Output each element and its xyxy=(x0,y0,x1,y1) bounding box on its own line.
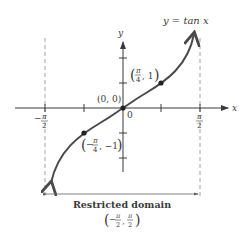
interval-label: ( − π 2 , π 2 ) xyxy=(104,212,140,229)
svg-text:(: ( xyxy=(130,67,135,83)
svg-text:2: 2 xyxy=(42,122,46,130)
curve-label: y = tan x xyxy=(162,15,209,26)
origin-label: (0, 0) xyxy=(97,94,121,104)
svg-text:4: 4 xyxy=(93,146,98,154)
svg-text:2: 2 xyxy=(128,221,132,229)
pos-half-pi-label: π 2 xyxy=(196,113,203,130)
svg-text:): ) xyxy=(154,67,159,83)
neg-half-pi-label: − π 2 xyxy=(34,113,48,130)
svg-text:4: 4 xyxy=(136,76,141,84)
y-axis-label: y xyxy=(117,28,124,38)
point-origin xyxy=(120,105,125,110)
x-axis-label: x xyxy=(232,103,237,113)
point-neg-label: ( − π 4 , −1 ) xyxy=(81,137,122,154)
svg-text:π: π xyxy=(92,137,98,145)
point-pos-label: ( π 4 , 1 ) xyxy=(130,67,159,84)
svg-text:π: π xyxy=(196,113,202,121)
point-neg-pi-over-4 xyxy=(81,130,86,135)
svg-text:,: , xyxy=(122,217,125,226)
svg-text:2: 2 xyxy=(197,122,201,130)
svg-text:π: π xyxy=(115,212,121,220)
svg-text:2: 2 xyxy=(116,221,120,229)
svg-text:): ) xyxy=(135,212,140,228)
restricted-domain-label: Restricted domain xyxy=(73,199,171,210)
svg-text:π: π xyxy=(127,212,133,220)
svg-text:π: π xyxy=(135,67,141,75)
zero-label: 0 xyxy=(127,110,133,120)
svg-text:): ) xyxy=(117,137,122,153)
svg-text:−: − xyxy=(34,113,42,123)
svg-text:−: − xyxy=(109,215,116,224)
svg-text:π: π xyxy=(41,113,47,121)
svg-text:, 1: , 1 xyxy=(142,71,153,81)
svg-text:, −1: , −1 xyxy=(99,141,118,151)
tan-graph: y = tan x y x (0, 0) 0 ( π 4 , 1 ) ( − π… xyxy=(0,0,250,240)
